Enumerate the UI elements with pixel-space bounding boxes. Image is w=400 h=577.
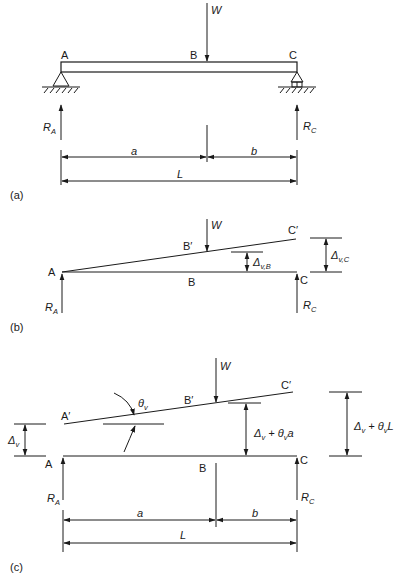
point-a-label: A [61, 49, 69, 61]
load-label: W [211, 4, 223, 16]
reaction-a-label: RA [43, 121, 56, 136]
roller-support-icon [278, 72, 316, 93]
reaction-c-label: RC [303, 120, 317, 135]
rotation-arrow-bottom [124, 426, 135, 452]
dim-a-label: a [137, 507, 143, 519]
reaction-a-label: RA [47, 492, 60, 507]
deflection-c-label: Δv + θvL [353, 420, 394, 435]
rotation-label: θv [138, 397, 149, 412]
deflection-a-label: Δv [7, 434, 20, 449]
panel-a: W A B C RA RC a b L (a) [10, 3, 317, 201]
point-a-label: A [48, 266, 56, 278]
point-c-label: C [289, 49, 297, 61]
beam [61, 62, 297, 72]
point-a-prime-label: A′ [61, 410, 70, 422]
panel-c: W A′ B′ C′ A B C Δv θv Δv + θva Δv + θvL… [7, 358, 394, 573]
point-b-label: B [190, 49, 197, 61]
point-b-label: B [188, 276, 195, 288]
panel-caption: (c) [10, 561, 23, 573]
dim-l-label: L [177, 168, 183, 180]
deflection-b-label: Δv,B [252, 256, 271, 271]
load-label: W [220, 360, 232, 372]
point-c-prime-label: C′ [281, 379, 291, 391]
deflection-b-label: Δv + θva [253, 427, 294, 442]
panel-caption: (b) [10, 321, 23, 333]
point-b-prime-label: B′ [183, 240, 192, 252]
reaction-c-label: RC [301, 491, 315, 506]
rotation-arrow-top [114, 393, 134, 415]
deflection-c-label: Δv,C [330, 249, 350, 264]
point-c-prime-label: C′ [288, 224, 298, 236]
deflected-beam-line [64, 392, 293, 424]
dim-b-label: b [251, 145, 257, 157]
pin-support-icon [42, 72, 80, 93]
point-c-label: C [300, 274, 308, 286]
reaction-a-label: RA [45, 301, 58, 316]
point-b-label: B [199, 462, 206, 474]
point-a-label: A [45, 458, 53, 470]
panel-caption: (a) [10, 189, 23, 201]
load-label: W [211, 219, 223, 231]
point-c-label: C [300, 454, 308, 466]
dim-l-label: L [180, 529, 186, 541]
point-b-prime-label: B′ [184, 394, 193, 406]
dim-b-label: b [252, 507, 258, 519]
beam-deflection-diagram: W A B C RA RC a b L (a) [0, 0, 400, 577]
panel-b: W A B C B′ C′ Δv,B Δv,C RA RC (b) [10, 219, 350, 333]
reaction-c-label: RC [303, 299, 317, 314]
dim-a-label: a [131, 145, 137, 157]
